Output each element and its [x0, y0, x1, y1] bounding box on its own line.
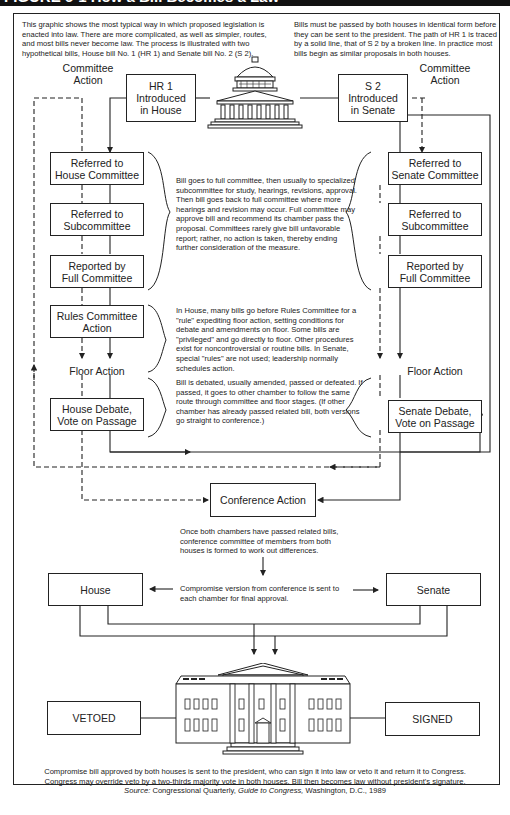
conference-note: Once both chambers have passed related b…	[180, 527, 350, 556]
rules-note: In House, many bills go before Rules Com…	[176, 306, 366, 373]
senate-floor-action-label: Floor Action	[388, 365, 482, 377]
house-debate-box[interactable]: House Debate, Vote on Passage	[50, 398, 144, 431]
senate-debate-box[interactable]: Senate Debate, Vote on Passage	[388, 400, 482, 433]
footer-line-1: Compromise bill approved by both houses …	[20, 767, 490, 777]
house-reported-box[interactable]: Reported by Full Committee	[50, 255, 144, 288]
conference-action-box[interactable]: Conference Action	[210, 483, 316, 517]
intro-left-text: This graphic shows the most typical way …	[22, 20, 267, 58]
footer-line-2: Congress may override veto by a two-thir…	[20, 777, 490, 787]
senate-referred-committee-box[interactable]: Referred to Senate Committee	[388, 152, 482, 185]
footer-source: Source: Congressional Quarterly, Guide t…	[20, 786, 490, 796]
house-committee-action-label: Committee Action	[58, 62, 118, 86]
rules-committee-box[interactable]: Rules Committee Action	[50, 305, 144, 338]
white-house-icon	[173, 663, 353, 757]
house-floor-action-label: Floor Action	[50, 365, 144, 377]
source-title: Guide to Congress,	[238, 786, 303, 795]
final-house-box[interactable]: House	[48, 573, 143, 606]
floor-note: Bill is debated, usually amended, passed…	[176, 378, 366, 426]
final-senate-box[interactable]: Senate	[386, 573, 481, 606]
signed-box[interactable]: SIGNED	[385, 702, 480, 736]
vetoed-box[interactable]: VETOED	[47, 701, 141, 735]
footer-text: Compromise bill approved by both houses …	[20, 767, 490, 796]
senate-referred-subcommittee-box[interactable]: Referred to Subcommittee	[388, 203, 482, 236]
senate-reported-box[interactable]: Reported by Full Committee	[388, 255, 482, 288]
compromise-note: Compromise version from conference is se…	[180, 584, 350, 603]
intro-right-text: Bills must be passed by both houses in i…	[294, 20, 499, 58]
house-referred-committee-box[interactable]: Referred to House Committee	[50, 152, 144, 185]
hr1-introduced-box[interactable]: HR 1 Introduced in House	[126, 74, 196, 122]
committee-note: Bill goes to full committee, then usuall…	[176, 176, 361, 253]
house-referred-subcommittee-box[interactable]: Referred to Subcommittee	[50, 203, 144, 236]
source-org: Congressional Quarterly,	[152, 786, 235, 795]
senate-committee-action-label: Committee Action	[415, 62, 475, 86]
source-rest: Washington, D.C., 1989	[306, 786, 386, 795]
capitol-building-icon	[205, 55, 305, 135]
source-label: Source:	[124, 786, 150, 795]
s2-introduced-box[interactable]: S 2 Introduced in Senate	[338, 74, 408, 122]
